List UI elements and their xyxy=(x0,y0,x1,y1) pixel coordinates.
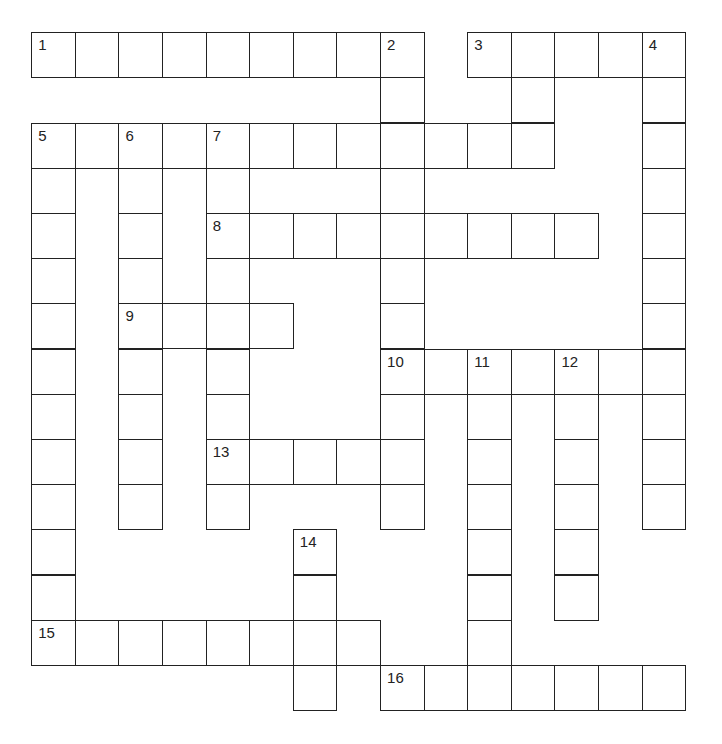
grid-cell[interactable] xyxy=(293,665,338,711)
grid-cell[interactable] xyxy=(642,484,687,530)
grid-cell[interactable] xyxy=(118,484,163,530)
grid-cell[interactable] xyxy=(554,529,599,575)
grid-cell[interactable] xyxy=(554,213,599,259)
grid-cell[interactable]: 14 xyxy=(293,529,338,575)
grid-cell[interactable]: 4 xyxy=(642,32,687,78)
grid-cell[interactable] xyxy=(206,484,251,530)
grid-cell[interactable] xyxy=(206,168,251,214)
grid-cell[interactable] xyxy=(31,484,76,530)
grid-cell[interactable] xyxy=(424,665,469,711)
grid-cell[interactable] xyxy=(467,394,512,440)
grid-cell[interactable] xyxy=(31,439,76,485)
grid-cell[interactable] xyxy=(424,213,469,259)
grid-cell[interactable] xyxy=(293,213,338,259)
grid-cell[interactable] xyxy=(336,213,381,259)
grid-cell[interactable] xyxy=(206,258,251,304)
grid-cell[interactable] xyxy=(293,123,338,169)
grid-cell[interactable] xyxy=(380,258,425,304)
grid-cell[interactable] xyxy=(424,123,469,169)
grid-cell[interactable] xyxy=(293,620,338,666)
grid-cell[interactable] xyxy=(511,349,556,395)
grid-cell[interactable] xyxy=(31,394,76,440)
grid-cell[interactable] xyxy=(118,439,163,485)
grid-cell[interactable] xyxy=(249,303,294,349)
grid-cell[interactable] xyxy=(206,349,251,395)
grid-cell[interactable] xyxy=(467,123,512,169)
grid-cell[interactable]: 12 xyxy=(554,349,599,395)
grid-cell[interactable]: 2 xyxy=(380,32,425,78)
grid-cell[interactable] xyxy=(206,303,251,349)
grid-cell[interactable] xyxy=(554,575,599,621)
grid-cell[interactable] xyxy=(380,484,425,530)
grid-cell[interactable] xyxy=(249,32,294,78)
grid-cell[interactable] xyxy=(336,32,381,78)
grid-cell[interactable] xyxy=(118,213,163,259)
grid-cell[interactable] xyxy=(118,620,163,666)
grid-cell[interactable]: 16 xyxy=(380,665,425,711)
grid-cell[interactable] xyxy=(598,665,643,711)
grid-cell[interactable]: 8 xyxy=(206,213,251,259)
grid-cell[interactable] xyxy=(31,529,76,575)
grid-cell[interactable] xyxy=(31,258,76,304)
grid-cell[interactable] xyxy=(642,665,687,711)
grid-cell[interactable] xyxy=(511,77,556,123)
grid-cell[interactable] xyxy=(75,32,120,78)
grid-cell[interactable] xyxy=(380,77,425,123)
grid-cell[interactable] xyxy=(467,665,512,711)
grid-cell[interactable] xyxy=(642,394,687,440)
grid-cell[interactable] xyxy=(162,620,207,666)
grid-cell[interactable]: 9 xyxy=(118,303,163,349)
grid-cell[interactable] xyxy=(554,32,599,78)
grid-cell[interactable] xyxy=(511,123,556,169)
grid-cell[interactable] xyxy=(75,123,120,169)
grid-cell[interactable] xyxy=(380,303,425,349)
grid-cell[interactable] xyxy=(336,620,381,666)
grid-cell[interactable] xyxy=(511,213,556,259)
grid-cell[interactable] xyxy=(642,439,687,485)
grid-cell[interactable] xyxy=(380,439,425,485)
grid-cell[interactable] xyxy=(118,394,163,440)
grid-cell[interactable] xyxy=(642,258,687,304)
grid-cell[interactable] xyxy=(336,123,381,169)
grid-cell[interactable]: 11 xyxy=(467,349,512,395)
grid-cell[interactable] xyxy=(642,213,687,259)
grid-cell[interactable]: 7 xyxy=(206,123,251,169)
grid-cell[interactable] xyxy=(118,258,163,304)
grid-cell[interactable]: 15 xyxy=(31,620,76,666)
grid-cell[interactable] xyxy=(554,439,599,485)
grid-cell[interactable] xyxy=(31,168,76,214)
grid-cell[interactable] xyxy=(642,349,687,395)
grid-cell[interactable] xyxy=(249,213,294,259)
grid-cell[interactable] xyxy=(642,303,687,349)
grid-cell[interactable] xyxy=(249,620,294,666)
grid-cell[interactable] xyxy=(467,575,512,621)
grid-cell[interactable] xyxy=(118,168,163,214)
grid-cell[interactable] xyxy=(554,484,599,530)
grid-cell[interactable] xyxy=(75,620,120,666)
grid-cell[interactable] xyxy=(293,32,338,78)
grid-cell[interactable] xyxy=(249,439,294,485)
grid-cell[interactable] xyxy=(467,620,512,666)
grid-cell[interactable] xyxy=(206,32,251,78)
grid-cell[interactable] xyxy=(424,349,469,395)
grid-cell[interactable] xyxy=(162,303,207,349)
grid-cell[interactable] xyxy=(31,213,76,259)
grid-cell[interactable] xyxy=(467,439,512,485)
grid-cell[interactable] xyxy=(642,77,687,123)
grid-cell[interactable] xyxy=(380,123,425,169)
grid-cell[interactable] xyxy=(293,439,338,485)
grid-cell[interactable] xyxy=(380,394,425,440)
grid-cell[interactable] xyxy=(31,349,76,395)
grid-cell[interactable]: 10 xyxy=(380,349,425,395)
grid-cell[interactable] xyxy=(162,32,207,78)
grid-cell[interactable] xyxy=(467,484,512,530)
grid-cell[interactable] xyxy=(554,394,599,440)
grid-cell[interactable] xyxy=(642,168,687,214)
grid-cell[interactable]: 3 xyxy=(467,32,512,78)
grid-cell[interactable] xyxy=(31,303,76,349)
grid-cell[interactable]: 1 xyxy=(31,32,76,78)
grid-cell[interactable]: 13 xyxy=(206,439,251,485)
grid-cell[interactable] xyxy=(118,349,163,395)
grid-cell[interactable]: 6 xyxy=(118,123,163,169)
grid-cell[interactable] xyxy=(249,123,294,169)
